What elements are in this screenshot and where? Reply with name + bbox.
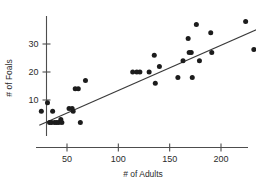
data-point [152, 53, 157, 58]
x-axis-tick-labels: 50100150200 [62, 154, 229, 164]
y-axis-tick-labels: 102030 [28, 39, 38, 105]
x-axis-title: # of Adults [123, 169, 163, 179]
data-point [251, 47, 256, 52]
x-axis: 50100150200 [36, 144, 248, 164]
x-tick-label: 150 [162, 154, 177, 164]
data-point [190, 75, 195, 80]
y-tick-label: 20 [28, 67, 38, 77]
data-point [137, 70, 142, 75]
data-point [181, 58, 186, 63]
data-points-layer [39, 19, 256, 125]
x-tick-label: 200 [213, 154, 228, 164]
plot-canvas: 102030 50100150200 # of Adults # of Foal… [0, 0, 256, 185]
data-point [157, 64, 162, 69]
data-point [50, 109, 55, 114]
x-tick-label: 50 [62, 154, 72, 164]
x-tick-label: 100 [111, 154, 126, 164]
y-axis: 102030 [28, 16, 50, 136]
data-point [153, 81, 158, 86]
data-point [45, 100, 50, 105]
y-tick-label: 10 [28, 95, 38, 105]
y-tick-label: 30 [28, 39, 38, 49]
data-point [194, 22, 199, 27]
data-point [39, 109, 44, 114]
data-point [78, 120, 83, 125]
data-point [208, 30, 213, 35]
data-point [243, 19, 248, 24]
data-point [83, 78, 88, 83]
data-point [197, 58, 202, 63]
data-point [189, 50, 194, 55]
data-point [175, 75, 180, 80]
data-point [147, 70, 152, 75]
data-point [76, 86, 81, 91]
scatter-plot-figure: 102030 50100150200 # of Adults # of Foal… [0, 0, 256, 185]
data-point [71, 109, 76, 114]
y-axis-title: # of Foals [4, 59, 14, 96]
data-point [59, 120, 64, 125]
data-point [209, 50, 214, 55]
data-point [186, 36, 191, 41]
